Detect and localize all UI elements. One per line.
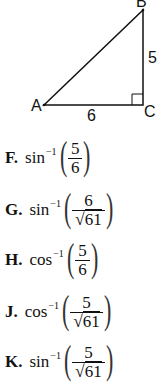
side-label-ac: 6 [87, 108, 96, 124]
inverse-exponent: −1 [48, 300, 59, 311]
triangle-drawing [0, 0, 160, 125]
radicand: 61 [83, 311, 100, 331]
right-paren: ) [106, 188, 113, 228]
sqrt-icon: √ [75, 211, 84, 229]
inverse-exponent: −1 [46, 146, 57, 157]
radicand: 61 [85, 361, 102, 381]
vertex-label-c: C [144, 104, 156, 120]
choice-letter: G. [5, 200, 22, 220]
vertex-label-a: A [31, 98, 42, 114]
denominator: √61 [70, 312, 102, 331]
right-paren: ) [104, 290, 111, 330]
inverse-exponent: −1 [50, 350, 61, 361]
inverse-exponent: −1 [53, 248, 64, 259]
left-paren: ( [64, 340, 71, 380]
function-name: cos [25, 302, 48, 322]
fraction: 5 √61 [70, 294, 102, 331]
side-label-bc: 5 [148, 50, 157, 66]
fraction: 5 6 [75, 242, 90, 279]
denominator: √61 [72, 362, 104, 381]
answer-choice-j[interactable]: J. cos−1 ( 5 √61 ) [5, 290, 114, 334]
left-paren: ( [64, 188, 71, 228]
choice-letter: H. [5, 250, 22, 270]
fraction: 5 √61 [72, 344, 104, 381]
right-paren: ) [91, 238, 98, 278]
numerator: 5 [79, 294, 94, 312]
right-triangle-figure: B A C 6 5 [0, 0, 160, 125]
choice-letter: F. [5, 148, 18, 168]
right-paren: ) [83, 136, 90, 176]
answer-choice-h[interactable]: H. cos−1 ( 5 6 ) [5, 238, 101, 282]
left-paren: ( [67, 238, 74, 278]
denominator: 6 [75, 260, 90, 279]
function-name: sin [25, 148, 45, 168]
answer-choice-k[interactable]: K. sin−1 ( 5 √61 ) [5, 340, 116, 384]
left-paren: ( [60, 136, 67, 176]
choice-letter: K. [5, 352, 22, 372]
inverse-exponent: −1 [50, 198, 61, 209]
answer-choice-g[interactable]: G. sin−1 ( 6 √61 ) [5, 188, 116, 232]
answer-choice-f[interactable]: F. sin−1 ( 5 6 ) [5, 136, 94, 180]
fraction: 5 6 [68, 140, 83, 177]
sqrt-icon: √ [75, 363, 84, 381]
left-paren: ( [62, 290, 69, 330]
function-name: sin [29, 352, 49, 372]
numerator: 5 [68, 140, 83, 158]
radicand: 61 [85, 209, 102, 229]
numerator: 5 [81, 344, 96, 362]
function-name: cos [29, 250, 52, 270]
fraction: 6 √61 [72, 192, 104, 229]
right-paren: ) [106, 340, 113, 380]
function-name: sin [29, 200, 49, 220]
numerator: 5 [75, 242, 90, 260]
numerator: 6 [81, 192, 96, 210]
denominator: 6 [68, 158, 83, 177]
sqrt-icon: √ [73, 313, 82, 331]
choice-letter: J. [5, 302, 18, 322]
denominator: √61 [72, 210, 104, 229]
vertex-label-b: B [136, 0, 147, 10]
